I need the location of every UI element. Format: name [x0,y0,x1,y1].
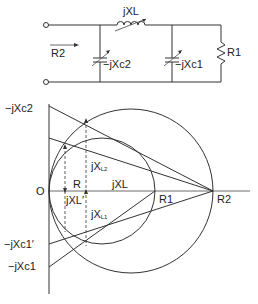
label-r: R [73,178,81,190]
input-terminal-bottom [44,80,49,85]
capacitor1-label: −jXc1 [175,58,203,70]
arrow-down-icon [63,188,67,193]
label-r1: R1 [159,193,173,205]
variable-inductor-icon [115,19,146,31]
input-resistance-label: R2 [51,47,65,59]
arrow-up-icon [84,189,88,194]
axis-label-jxc1-prime: −jXc1′ [4,238,34,250]
label-r2: R2 [217,193,231,205]
label-jxl: jXL [111,178,128,190]
axis-label-jxc2: −jXc2 [5,102,33,114]
origin-label: O [36,185,45,197]
arrow-up-icon [84,118,88,123]
label-jxl-prime: jXL′ [65,194,84,206]
resistor-label: R1 [227,46,241,58]
capacitor2-label: −jXc2 [103,58,131,70]
axis-label-jxc1: −jXc1 [8,260,36,272]
label-jxl1: jXL1 [90,208,108,220]
impedance-matching-diagram: jXL R2 −jXc2 −jXc1 R1 −jXc2 O −jXc1′ −jX… [0,0,258,304]
circuit-schematic: jXL R2 −jXc2 −jXc1 R1 [44,5,242,85]
label-jxl2: jXL2 [90,160,108,172]
impedance-plot: −jXc2 O −jXc1′ −jXc1 R jXL jXL2 jXL1 jXL… [4,102,250,294]
inductor-label: jXL [122,5,139,17]
resistor-icon [217,42,225,64]
input-terminal-top [44,23,49,28]
